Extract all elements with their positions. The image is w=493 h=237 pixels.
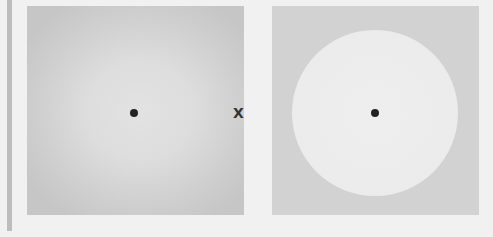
fixation-dot-left: [130, 109, 138, 117]
x-mark: X: [233, 104, 244, 122]
fixation-dot-right: [371, 109, 379, 117]
sharp-disc-stimulus-panel: [272, 6, 479, 215]
light-disc: [292, 30, 458, 196]
blurred-stimulus-panel: [27, 6, 244, 215]
left-edge-bar: [7, 0, 12, 231]
